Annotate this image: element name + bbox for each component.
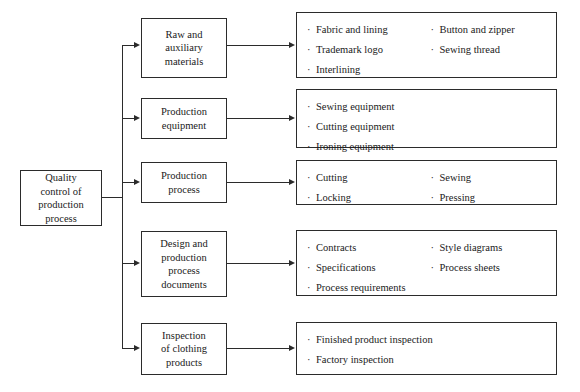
details-box-inspection-of-clothing-products: ·Finished product inspection ·Factory in… <box>296 322 557 375</box>
list-item: ·Ironing equipment <box>307 137 435 157</box>
details-column-1: ·Sewing equipment ·Cutting equipment ·Ir… <box>307 97 435 140</box>
node-inspection-of-clothing-products: Inspectionof clothingproducts <box>141 323 227 375</box>
list-item: ·Trademark logo <box>307 40 431 60</box>
list-item: ·Contracts <box>307 238 431 258</box>
details-column-1: ·Finished product inspection ·Factory in… <box>307 330 507 367</box>
bullet-icon: · <box>431 188 440 208</box>
list-item-label: Locking <box>316 192 351 203</box>
bullet-icon: · <box>307 188 316 208</box>
bullet-icon: · <box>431 238 440 258</box>
arrow-head-details-5 <box>289 345 295 351</box>
list-item-label: Trademark logo <box>316 44 383 55</box>
details-column-1: ·Cutting ·Locking <box>307 168 431 197</box>
arrow-head-details-4 <box>289 260 295 266</box>
node-label-5: Inspectionof clothingproducts <box>161 329 207 370</box>
list-item: ·Specifications <box>307 258 431 278</box>
connector-node-5-to-details <box>227 348 290 349</box>
arrow-head-node-3 <box>134 179 140 185</box>
bullet-icon: · <box>307 117 316 137</box>
list-item-label: Process requirements <box>316 282 406 293</box>
details-column-2: ·Sewing ·Pressing <box>431 168 556 197</box>
arrow-head-details-2 <box>289 115 295 121</box>
node-design-and-production-process-documents: Design andproductionprocessdocuments <box>141 231 227 297</box>
list-item: ·Sewing equipment <box>307 97 435 117</box>
list-item: ·Sewing thread <box>431 40 556 60</box>
arrow-head-details-3 <box>289 179 295 185</box>
list-item: ·Sewing <box>431 168 556 188</box>
list-item: ·Factory inspection <box>307 350 507 370</box>
details-box-production-process: ·Cutting ·Locking ·Sewing ·Pressing <box>296 160 557 205</box>
details-box-raw-and-auxiliary-materials: ·Fabric and lining ·Trademark logo ·Inte… <box>296 12 557 78</box>
list-item-label: Interlining <box>316 64 360 75</box>
bullet-icon: · <box>431 168 440 188</box>
details-column-1: ·Contracts ·Specifications ·Process requ… <box>307 238 431 288</box>
list-item: ·Interlining <box>307 60 431 80</box>
bullet-icon: · <box>307 40 316 60</box>
bullet-icon: · <box>431 258 440 278</box>
bullet-icon: · <box>307 278 316 298</box>
bullet-icon: · <box>431 20 440 40</box>
bullet-icon: · <box>307 350 316 370</box>
node-label-3: Productionprocess <box>161 169 207 196</box>
node-raw-and-auxiliary-materials: Raw andauxiliarymaterials <box>141 18 227 78</box>
list-item-label: Sewing thread <box>440 44 500 55</box>
connector-node-1-to-details <box>227 45 290 46</box>
list-item: ·Process requirements <box>307 278 431 298</box>
arrow-head-node-2 <box>134 115 140 121</box>
list-item-label: Factory inspection <box>316 354 394 365</box>
bullet-icon: · <box>307 258 316 278</box>
bullet-icon: · <box>307 60 316 80</box>
bullet-icon: · <box>307 238 316 258</box>
arrow-head-details-1 <box>289 42 295 48</box>
arrow-head-node-4 <box>134 260 140 266</box>
details-box-design-and-production-process-documents: ·Contracts ·Specifications ·Process requ… <box>296 230 557 296</box>
node-label-4: Design andproductionprocessdocuments <box>160 237 208 291</box>
details-column-1: ·Fabric and lining ·Trademark logo ·Inte… <box>307 20 431 70</box>
list-item-label: Specifications <box>316 262 375 273</box>
list-item-label: Sewing <box>440 172 472 183</box>
list-item: ·Style diagrams <box>431 238 556 258</box>
root-node-quality-control: Qualitycontrol ofproductionprocess <box>20 170 102 226</box>
connector-node-2-to-details <box>227 118 290 119</box>
list-item-label: Finished product inspection <box>316 334 433 345</box>
list-item-label: Contracts <box>316 242 356 253</box>
bullet-icon: · <box>307 137 316 157</box>
list-item-label: Cutting <box>316 172 348 183</box>
list-item: ·Fabric and lining <box>307 20 431 40</box>
list-item: ·Process sheets <box>431 258 556 278</box>
list-item-label: Style diagrams <box>440 242 503 253</box>
list-item: ·Cutting equipment <box>307 117 435 137</box>
list-item-label: Sewing equipment <box>316 101 394 112</box>
bullet-icon: · <box>307 168 316 188</box>
connector-node-3-to-details <box>227 182 290 183</box>
list-item: ·Finished product inspection <box>307 330 507 350</box>
flowchart-quality-control: Qualitycontrol ofproductionprocess Raw a… <box>0 0 580 392</box>
root-node-label: Qualitycontrol ofproductionprocess <box>38 171 84 225</box>
list-item: ·Locking <box>307 188 431 208</box>
details-column-2: ·Style diagrams ·Process sheets <box>431 238 556 288</box>
node-production-equipment: Productionequipment <box>141 98 227 139</box>
node-label-2: Productionequipment <box>161 105 207 132</box>
node-production-process: Productionprocess <box>141 162 227 203</box>
bullet-icon: · <box>307 330 316 350</box>
list-item-label: Ironing equipment <box>316 141 394 152</box>
node-label-1: Raw andauxiliarymaterials <box>165 28 203 69</box>
list-item-label: Fabric and lining <box>316 24 388 35</box>
bullet-icon: · <box>431 40 440 60</box>
list-item: ·Cutting <box>307 168 431 188</box>
details-column-2: ·Button and zipper ·Sewing thread <box>431 20 556 70</box>
bullet-icon: · <box>307 20 316 40</box>
list-item-label: Button and zipper <box>440 24 515 35</box>
connector-node-4-to-details <box>227 263 290 264</box>
bullet-icon: · <box>307 97 316 117</box>
connector-spine <box>122 45 123 348</box>
arrow-head-node-1 <box>134 42 140 48</box>
list-item: ·Button and zipper <box>431 20 556 40</box>
arrow-head-node-5 <box>134 345 140 351</box>
details-box-production-equipment: ·Sewing equipment ·Cutting equipment ·Ir… <box>296 89 557 148</box>
list-item-label: Cutting equipment <box>316 121 394 132</box>
list-item: ·Pressing <box>431 188 556 208</box>
connector-root-to-spine <box>102 197 123 198</box>
list-item-label: Process sheets <box>440 262 500 273</box>
list-item-label: Pressing <box>440 192 476 203</box>
